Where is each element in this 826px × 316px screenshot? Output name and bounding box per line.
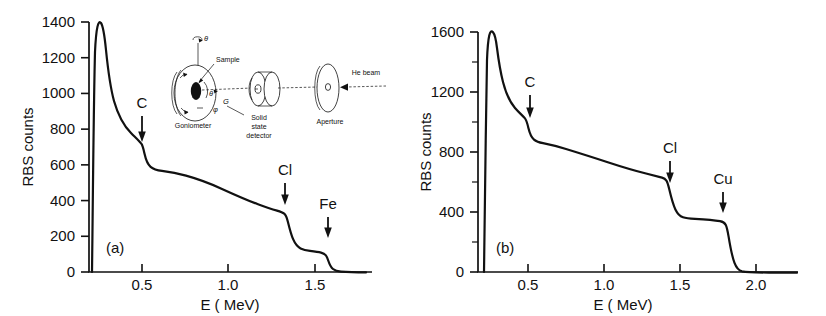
y-tick-400: 400 [439, 203, 464, 220]
inset-g-label: G [223, 97, 229, 106]
y-tick-600: 600 [50, 156, 75, 173]
panel-b-xlabel: E ( MeV) [593, 296, 652, 313]
panel-a-annotations: C Cl Fe [137, 94, 337, 238]
x-tick-1.0: 1.0 [218, 276, 239, 293]
inset-theta-scatter-label: θ [209, 89, 213, 98]
x-tick-2.0: 2.0 [746, 276, 767, 293]
y-tick-1000: 1000 [42, 84, 75, 101]
x-tick-1.5: 1.5 [670, 276, 691, 293]
aperture [315, 64, 339, 112]
edge-label-Cl: Cl [278, 161, 292, 178]
panel-b-edge-C: C [525, 73, 536, 118]
y-tick-0: 0 [67, 263, 75, 280]
inset-detector-label-line3: detector [246, 132, 272, 139]
inset-detector-label-line1: Solid [251, 114, 267, 121]
panel-b-y-ticklabels: 0 400 800 1200 1600 [431, 23, 464, 280]
panel-b-ylabel: RBS counts [417, 112, 434, 191]
inset-he-beam-label: He beam [352, 69, 381, 76]
y-tick-0: 0 [456, 263, 464, 280]
panel-a-edge-Cl: Cl [278, 161, 292, 205]
inset-theta-axis-label: θ [204, 34, 208, 43]
edge-label-Cu: Cu [713, 170, 732, 187]
inset-goniometer-label: Goniometer [175, 122, 212, 129]
panel-a-xlabel: E ( MeV) [200, 296, 259, 313]
rbs-figure: 0 200 400 600 800 1000 1200 1400 0.5 1.0… [0, 0, 826, 316]
panel-a-edge-C: C [137, 94, 148, 142]
panel-b-edge-Cl: Cl [663, 139, 677, 183]
arrow-head-C [526, 108, 534, 119]
panel-b-edge-Cu: Cu [713, 170, 732, 213]
panel-b-curve [484, 31, 797, 272]
edge-label-Cl: Cl [663, 139, 677, 156]
panel-a-x-ticklabels: 0.5 1.0 1.5 [132, 276, 326, 293]
x-tick-1.0: 1.0 [594, 276, 615, 293]
x-tick-0.5: 0.5 [518, 276, 539, 293]
arrow-head-Fe [324, 228, 332, 239]
panel-b-svg: 0 400 800 1200 1600 0.5 1.0 1.5 2.0 E ( … [413, 0, 826, 316]
panel-a-y-ticks [81, 22, 89, 272]
y-tick-800: 800 [50, 120, 75, 137]
arrow-head-Cl [281, 195, 289, 206]
y-tick-1200: 1200 [431, 83, 464, 100]
y-tick-1400: 1400 [42, 13, 75, 30]
panel-b-label: (b) [496, 239, 514, 256]
panel-b-annotations: C Cl Cu [525, 73, 733, 213]
inset-detector-label-line2: state [251, 123, 266, 130]
edge-label-C: C [525, 73, 536, 90]
panel-b: 0 400 800 1200 1600 0.5 1.0 1.5 2.0 E ( … [413, 0, 826, 316]
edge-label-Fe: Fe [319, 195, 337, 212]
y-tick-1600: 1600 [431, 23, 464, 40]
sample-spot [191, 82, 201, 100]
inset-sample-label: Sample [216, 56, 240, 64]
y-tick-400: 400 [50, 192, 75, 209]
panel-a-y-ticklabels: 0 200 400 600 800 1000 1200 1400 [42, 13, 75, 280]
x-tick-1.5: 1.5 [305, 276, 326, 293]
panel-a-edge-Fe: Fe [319, 195, 337, 238]
x-tick-0.5: 0.5 [132, 276, 153, 293]
y-tick-200: 200 [50, 227, 75, 244]
panel-a-x-ticks [142, 264, 315, 272]
panel-b-x-ticks [528, 264, 756, 272]
y-tick-1200: 1200 [42, 49, 75, 66]
panel-b-y-ticks [470, 32, 478, 272]
edge-label-C: C [137, 94, 148, 111]
arrow-head-Cu [719, 203, 727, 214]
panel-b-axes [470, 32, 798, 272]
inset-phi-label: φ [213, 105, 218, 114]
experimental-geometry-inset: θ Sample Goniometer [172, 34, 386, 139]
panel-a-svg: 0 200 400 600 800 1000 1200 1400 0.5 1.0… [0, 0, 413, 316]
panel-a-ylabel: RBS counts [19, 107, 36, 186]
panel-a-label: (a) [106, 239, 124, 256]
panel-b-x-ticklabels: 0.5 1.0 1.5 2.0 [518, 276, 767, 293]
panel-a: 0 200 400 600 800 1000 1200 1400 0.5 1.0… [0, 0, 413, 316]
solid-state-detector [249, 72, 280, 106]
inset-aperture-label: Aperture [317, 118, 344, 126]
y-tick-800: 800 [439, 143, 464, 160]
